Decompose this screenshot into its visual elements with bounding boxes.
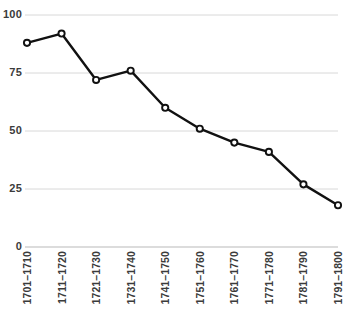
data-point-marker — [162, 105, 168, 111]
x-axis-tick-label: 1751–1760 — [195, 251, 206, 304]
x-axis-tick-label: 1711–1720 — [56, 251, 67, 304]
x-axis-tick-label: 1791–1800 — [333, 251, 344, 304]
x-axis-tick-label: 1761–1770 — [229, 251, 240, 304]
x-axis-tick-label: 1721–1730 — [91, 251, 102, 304]
data-point-marker — [231, 140, 237, 146]
x-axis-tick-label: 1701–1710 — [22, 251, 33, 304]
line-chart: 0255075100 1701–17101711–17201721–173017… — [0, 0, 347, 318]
data-series-group — [27, 34, 338, 206]
x-axis-tick-label: 1741–1750 — [160, 251, 171, 304]
y-axis-tick-label: 75 — [0, 67, 22, 78]
data-point-marker — [58, 30, 64, 36]
gridlines-group — [25, 15, 338, 247]
data-point-marker — [335, 202, 341, 208]
x-axis-tick-label: 1771–1780 — [264, 251, 275, 304]
y-axis-tick-label: 50 — [0, 125, 22, 136]
y-axis-tick-label: 100 — [0, 9, 22, 20]
y-axis-tick-label: 0 — [0, 241, 22, 252]
data-point-marker — [93, 77, 99, 83]
data-point-marker — [197, 126, 203, 132]
data-point-marker — [128, 68, 134, 74]
y-axis-tick-label: 25 — [0, 183, 22, 194]
data-point-marker — [266, 149, 272, 155]
chart-plot-area — [0, 0, 347, 318]
x-axis-tick-label: 1731–1740 — [125, 251, 136, 304]
x-axis-tick-label: 1781–1790 — [298, 251, 309, 304]
data-point-marker — [300, 181, 306, 187]
series-line — [27, 34, 338, 206]
data-point-marker — [24, 40, 30, 46]
